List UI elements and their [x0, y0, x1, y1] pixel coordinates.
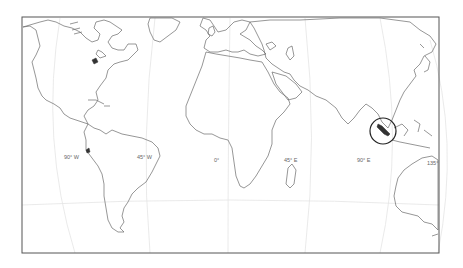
longitude-label-45e: 45° E: [284, 158, 298, 164]
longitude-label-90e: 90° E: [357, 158, 371, 164]
world-map: [0, 0, 463, 268]
longitude-label-90w: 90° W: [64, 155, 79, 161]
longitude-label-0: 0°: [214, 158, 219, 164]
coastlines: [23, 18, 438, 236]
graticule: [22, 18, 447, 253]
sumatra-shape: [377, 124, 390, 136]
longitude-label-135: 135°: [427, 161, 438, 167]
longitude-label-45w: 45° W: [137, 155, 152, 161]
